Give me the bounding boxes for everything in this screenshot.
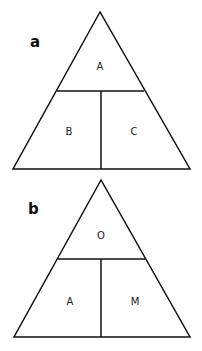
panel-label-b: b [28,200,39,218]
bottom-right-label-b: M [131,296,140,307]
bottom-left-label-b: A [67,296,74,307]
diagram-canvas: a A B C b O A M [0,0,202,351]
top-section-label-a: A [97,61,104,72]
bottom-left-label-a: B [66,126,73,137]
bottom-right-label-a: C [131,126,138,137]
triangle-diagram-a: a A B C [13,12,190,169]
top-section-label-b: O [97,230,105,241]
panel-label-a: a [30,33,40,51]
triangle-diagram-b: b O A M [14,180,190,337]
